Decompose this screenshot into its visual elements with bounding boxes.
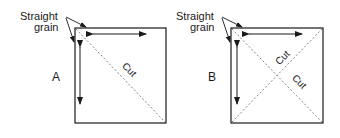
pointer-line-top-b (222, 17, 242, 27)
pointer-line-top-a (66, 17, 86, 27)
pointer-line-left-a (66, 18, 74, 42)
panel-label-b: B (208, 70, 216, 84)
straight-grain-label-line2-b: grain (190, 21, 214, 33)
panel-b: Straight grain B Cut Cut (176, 10, 323, 123)
straight-grain-label-line2-a: grain (34, 21, 58, 33)
panel-label-a: A (52, 70, 60, 84)
cut-line-diagonal-a (76, 29, 165, 122)
fabric-cutting-diagram: Straight grain A Cut Straight grain B Cu… (0, 0, 340, 138)
cut-label-a: Cut (120, 60, 139, 79)
pointer-line-left-b (222, 18, 230, 42)
cut-label-b-upper: Cut (273, 48, 292, 67)
panel-a: Straight grain A Cut (20, 10, 166, 123)
cut-label-b-lower: Cut (290, 72, 309, 91)
